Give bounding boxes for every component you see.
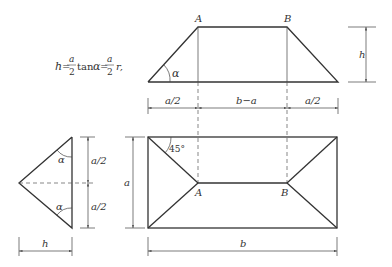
svg-text:α: α — [56, 201, 63, 212]
svg-text:B: B — [280, 187, 288, 198]
svg-text:a: a — [107, 54, 112, 64]
svg-text:a/2: a/2 — [91, 155, 107, 166]
svg-text:a/2: a/2 — [91, 201, 107, 212]
formula: h = a 2 tan α = a 2 r, — [55, 54, 123, 77]
svg-text:α: α — [58, 154, 65, 165]
svg-text:a/2: a/2 — [165, 95, 181, 106]
svg-text:2: 2 — [69, 67, 75, 77]
svg-text:45°: 45° — [169, 144, 185, 154]
svg-text:A: A — [194, 187, 202, 198]
svg-text:h: h — [42, 238, 48, 249]
svg-text:r,: r, — [116, 61, 123, 72]
svg-text:α: α — [172, 67, 180, 80]
svg-text:a/2: a/2 — [305, 95, 321, 106]
svg-text:A: A — [194, 13, 202, 24]
svg-text:b: b — [240, 238, 246, 249]
svg-text:a: a — [69, 54, 74, 64]
svg-text:a: a — [124, 177, 130, 188]
svg-text:h: h — [359, 49, 365, 60]
plan-view: 45° A B a b — [124, 137, 337, 256]
svg-text:2: 2 — [107, 67, 113, 77]
elevation-view: α A B h a/2 b−a a/2 — [148, 13, 376, 114]
svg-text:B: B — [283, 13, 291, 24]
svg-text:tan: tan — [77, 61, 94, 72]
hip-roof-diagram: h = a 2 tan α = a 2 r, α A B h a/2 b−a a… — [0, 0, 392, 267]
side-view: α α a/2 a/2 h — [19, 137, 107, 256]
svg-text:b−a: b−a — [236, 95, 257, 106]
